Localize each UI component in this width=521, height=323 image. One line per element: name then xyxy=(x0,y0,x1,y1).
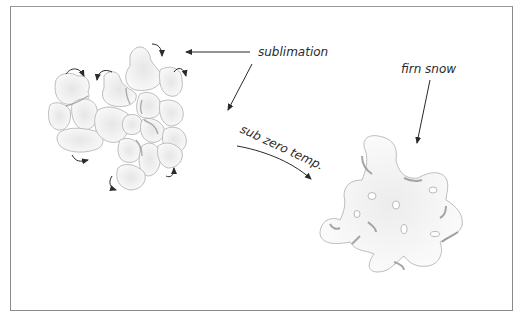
firn-snow-grain xyxy=(320,136,462,272)
snow-grain-cluster xyxy=(48,47,186,190)
firn-snow-label: firn snow xyxy=(401,62,456,76)
sublimation-label: sublimation xyxy=(258,45,328,59)
firn-snow-arrow xyxy=(417,80,430,143)
sublimation-arrow-down xyxy=(228,64,252,110)
